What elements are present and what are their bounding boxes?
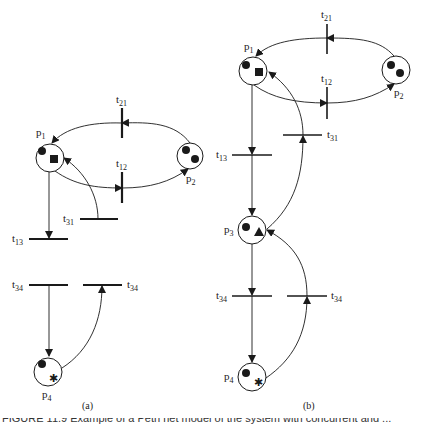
svg-text:p1: p1	[244, 40, 254, 55]
svg-text:t12: t12	[321, 72, 332, 87]
arc-p1-to-t12	[254, 85, 327, 103]
token-square	[255, 68, 263, 76]
place-p1-a	[36, 144, 64, 172]
svg-text:t34: t34	[127, 278, 138, 293]
caption-b: (b)	[303, 400, 315, 412]
petri-net-diagram: ✱ t21 t12 t31 t13 t34 t34 p1 p2 p4 (a)	[0, 0, 425, 424]
labels-b: t21 t12 t31 t13 t34 t34 p1 p2 p3 p4 (b)	[216, 8, 404, 412]
token-circle	[38, 147, 46, 155]
token-circle	[38, 360, 46, 368]
token-circle	[242, 61, 250, 69]
arc-t12-to-p2	[327, 84, 394, 103]
token-circle	[191, 155, 199, 163]
token-star: ✱	[254, 376, 263, 388]
figure-caption-clipped: FIGURE 11.9 Example of a Petri net model…	[0, 418, 425, 424]
place-p1-b	[239, 57, 267, 85]
token-circle	[182, 146, 190, 154]
token-circle	[396, 69, 404, 77]
svg-text:t31: t31	[63, 212, 74, 227]
arc-t31-to-p1	[269, 72, 303, 135]
place-p4-b: ✱	[238, 363, 266, 391]
svg-text:t21: t21	[116, 93, 127, 108]
svg-text:p2: p2	[394, 86, 404, 101]
svg-text:t31: t31	[327, 128, 338, 143]
arc-t21-to-p1	[256, 38, 327, 56]
token-circle	[387, 61, 395, 69]
arc-t31-to-p1	[64, 158, 98, 219]
place-p2-a	[177, 143, 203, 169]
arc-p2-to-t21	[122, 123, 190, 143]
svg-text:t21: t21	[321, 8, 332, 23]
svg-text:t12: t12	[116, 157, 127, 172]
place-p3-b	[238, 216, 266, 244]
arc-t21-to-p1	[52, 123, 122, 143]
token-triangle	[254, 227, 264, 236]
svg-text:p4: p4	[42, 388, 52, 403]
svg-text:t13: t13	[12, 232, 23, 247]
svg-text:t34: t34	[331, 289, 342, 304]
place-p2-b	[382, 56, 410, 84]
arc-p1-to-t12	[55, 171, 122, 188]
svg-text:t34: t34	[12, 278, 23, 293]
svg-text:p2: p2	[186, 172, 196, 187]
place-p4-a: ✱	[34, 358, 62, 386]
token-circle	[242, 223, 250, 231]
arc-t12-to-p2	[122, 169, 188, 188]
svg-text:p4: p4	[224, 370, 234, 385]
token-star: ✱	[49, 372, 58, 384]
token-circle	[242, 369, 250, 377]
arc-p4-to-t34	[62, 286, 102, 368]
arc-p4-to-t34	[266, 297, 307, 378]
svg-text:p3: p3	[224, 223, 234, 238]
arc-p2-to-t21	[327, 38, 394, 56]
arc-p3-to-t31	[267, 136, 303, 229]
panel-a: ✱	[29, 108, 203, 386]
svg-text:t34: t34	[216, 289, 227, 304]
arc-t34-to-p3	[267, 230, 307, 296]
svg-text:t13: t13	[216, 148, 227, 163]
caption-a: (a)	[82, 400, 93, 412]
svg-text:p1: p1	[36, 126, 46, 141]
figure-caption-text: FIGURE 11.9 Example of a Petri net model…	[0, 418, 425, 424]
token-square	[50, 155, 58, 163]
